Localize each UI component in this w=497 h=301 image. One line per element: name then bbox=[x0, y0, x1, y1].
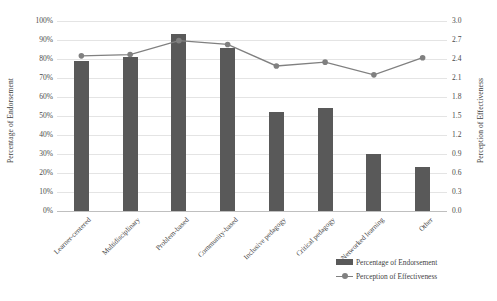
line-marker bbox=[225, 42, 231, 48]
line-marker bbox=[420, 55, 426, 61]
y-axis-left-tick: 90% bbox=[39, 36, 53, 44]
x-axis-label: Learner-centered bbox=[3, 216, 94, 301]
y-axis-left-tick: 50% bbox=[39, 112, 53, 120]
line-marker bbox=[371, 72, 377, 78]
line-marker bbox=[322, 59, 328, 65]
y-axis-right-title: Perception of Effectiveness bbox=[476, 61, 485, 181]
bar-swatch-icon bbox=[336, 259, 353, 265]
y-axis-left-tick: 70% bbox=[39, 74, 53, 82]
line-marker bbox=[79, 53, 85, 59]
y-axis-right-tick: 3.0 bbox=[452, 17, 461, 25]
x-axis-label: Multidisciplinary bbox=[51, 216, 142, 301]
y-axis-right-tick: 1.5 bbox=[452, 112, 461, 120]
y-axis-right-tick: 1.2 bbox=[452, 131, 461, 139]
y-axis-right-tick: 0.9 bbox=[452, 150, 461, 158]
legend-label-endorsement: Percentage of Endorsement bbox=[356, 258, 437, 267]
line-marker bbox=[274, 63, 280, 69]
y-axis-left-tick: 0% bbox=[43, 207, 53, 215]
y-axis-left-tick: 40% bbox=[39, 131, 53, 139]
line-marker bbox=[176, 38, 182, 44]
y-axis-left-tick: 20% bbox=[39, 169, 53, 177]
x-axis-label: Problem-based bbox=[100, 216, 191, 301]
y-axis-right-tick: 0.6 bbox=[452, 169, 461, 177]
x-axis-label: Critical pedagogy bbox=[246, 216, 337, 301]
chart-container: Percentage of Endorsement Perception of … bbox=[0, 0, 497, 301]
y-axis-left-tick: 30% bbox=[39, 150, 53, 158]
x-axis-label: Community-based bbox=[149, 216, 240, 301]
legend-label-effectiveness: Perception of Effectiveness bbox=[356, 272, 437, 281]
y-axis-right-tick: 0.3 bbox=[452, 188, 461, 196]
y-axis-left-tick: 60% bbox=[39, 93, 53, 101]
y-axis-left-title: Percentage of Endorsement bbox=[6, 61, 15, 181]
legend-item-effectiveness: Perception of Effectiveness bbox=[336, 269, 437, 283]
y-axis-left-tick: 100% bbox=[36, 17, 54, 25]
line-path bbox=[81, 41, 422, 75]
x-axis-label: Inclusive pedagogy bbox=[198, 216, 289, 301]
line-marker-swatch-icon bbox=[336, 273, 353, 280]
y-axis-right-tick: 2.7 bbox=[452, 36, 461, 44]
plot-area: 0%10%20%30%40%50%60%70%80%90%100% 0.00.3… bbox=[57, 21, 447, 211]
line-series bbox=[57, 21, 447, 211]
y-axis-left-tick: 10% bbox=[39, 188, 53, 196]
y-axis-left-tick: 80% bbox=[39, 55, 53, 63]
gridline bbox=[57, 211, 447, 212]
legend-item-endorsement: Percentage of Endorsement bbox=[336, 255, 437, 269]
y-axis-right-tick: 2.1 bbox=[452, 74, 461, 82]
chart-legend: Percentage of Endorsement Perception of … bbox=[336, 255, 437, 283]
y-axis-right-tick: 2.4 bbox=[452, 55, 461, 63]
y-axis-right-tick: 1.8 bbox=[452, 93, 461, 101]
y-axis-right-tick: 0.0 bbox=[452, 207, 461, 215]
line-marker bbox=[127, 52, 133, 58]
